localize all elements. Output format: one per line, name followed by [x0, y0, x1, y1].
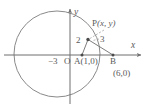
geometry-figure: y x P(x, y) 2 3 −3 O A(1,0) B (6,0) — [0, 0, 149, 108]
point-b-label: B — [110, 57, 116, 66]
y-axis-label: y — [74, 8, 78, 18]
segment-pa — [82, 40, 88, 56]
point-b-coords-label: (6,0) — [113, 69, 130, 78]
segment-pb-label: 3 — [100, 35, 105, 44]
segment-pa-label: 2 — [76, 36, 81, 45]
origin-label: O — [64, 57, 71, 66]
point-marker-p — [86, 38, 89, 41]
circle-shape — [14, 11, 100, 97]
point-p-label: P(x, y) — [92, 19, 116, 28]
x-axis-label: x — [131, 41, 135, 51]
point-a-label: A(1,0) — [74, 57, 98, 66]
x-intercept-left-label: −3 — [48, 57, 58, 66]
point-p-coords: (x, y) — [97, 18, 115, 28]
